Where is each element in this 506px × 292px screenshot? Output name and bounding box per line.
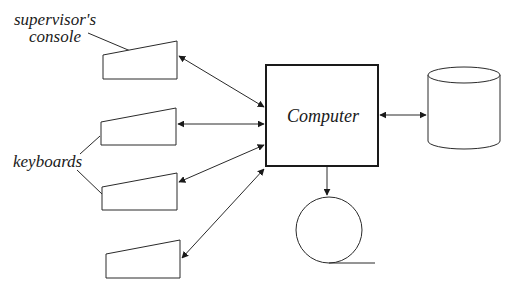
system-block-diagram: supervisor's console keyboards Computer (0, 0, 506, 292)
tape-drive-reel (296, 197, 375, 263)
connector-keyboard2-computer (179, 145, 264, 182)
keyboard-terminal-3 (106, 240, 180, 278)
keyboards-label: keyboards (13, 152, 83, 171)
keyboard-terminal-1 (101, 108, 176, 145)
supervisor-console-label-line2: console (29, 27, 81, 46)
keyboard-terminal-2 (102, 173, 177, 210)
disk-storage-cylinder (428, 67, 500, 149)
keyboards-leader-line-1 (80, 136, 100, 154)
connector-keyboard3-computer (182, 169, 264, 258)
keyboards-leader-line-2 (77, 170, 102, 194)
connector-console-computer (179, 56, 264, 107)
computer-label: Computer (287, 106, 360, 126)
supervisor-console-terminal (103, 41, 177, 79)
